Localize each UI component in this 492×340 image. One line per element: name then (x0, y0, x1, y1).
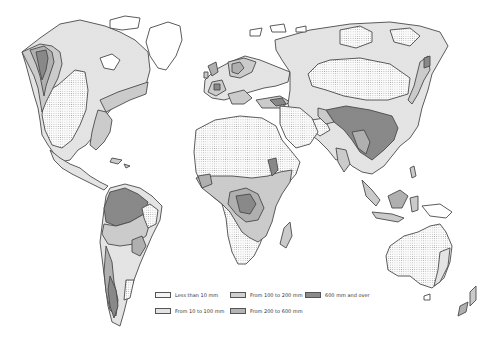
europe (204, 56, 290, 108)
north-america (22, 16, 182, 190)
world-precipitation-map (0, 0, 492, 340)
southeast-asia-islands (362, 166, 452, 222)
asia (275, 22, 448, 174)
africa (194, 116, 300, 264)
australia (386, 224, 476, 316)
south-america (100, 184, 162, 326)
